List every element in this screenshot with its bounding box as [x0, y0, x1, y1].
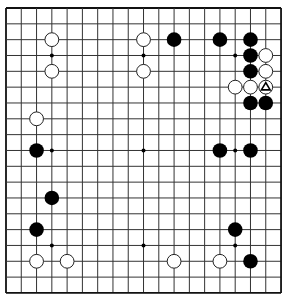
white-stone[interactable]	[45, 64, 59, 78]
white-stone[interactable]	[45, 33, 59, 47]
black-stone[interactable]	[243, 32, 258, 47]
star-point	[142, 243, 146, 247]
black-stone[interactable]	[213, 143, 228, 158]
star-point	[233, 243, 237, 247]
black-stone[interactable]	[243, 48, 258, 63]
star-point	[142, 53, 146, 57]
black-stone[interactable]	[243, 64, 258, 79]
black-stone[interactable]	[213, 32, 228, 47]
white-stone[interactable]	[228, 80, 242, 94]
black-stone[interactable]	[258, 96, 273, 111]
star-point	[142, 148, 146, 152]
white-stone[interactable]	[244, 80, 258, 94]
white-stone[interactable]	[259, 49, 273, 63]
white-stone[interactable]	[30, 112, 44, 126]
white-stone[interactable]	[137, 64, 151, 78]
black-stone[interactable]	[243, 254, 258, 269]
white-stone[interactable]	[60, 254, 74, 268]
black-stone[interactable]	[228, 222, 243, 237]
white-stone[interactable]	[30, 254, 44, 268]
white-stone[interactable]	[259, 64, 273, 78]
black-stone[interactable]	[243, 143, 258, 158]
go-board	[0, 0, 286, 304]
black-stone[interactable]	[29, 143, 44, 158]
star-point	[50, 148, 54, 152]
black-stone[interactable]	[167, 32, 182, 47]
black-stone[interactable]	[45, 191, 60, 206]
white-stone[interactable]	[137, 33, 151, 47]
star-point	[50, 53, 54, 57]
black-stone[interactable]	[243, 96, 258, 111]
black-stone[interactable]	[29, 222, 44, 237]
white-stone[interactable]	[213, 254, 227, 268]
star-point	[50, 243, 54, 247]
white-stone[interactable]	[167, 254, 181, 268]
star-point	[233, 148, 237, 152]
star-point	[233, 53, 237, 57]
